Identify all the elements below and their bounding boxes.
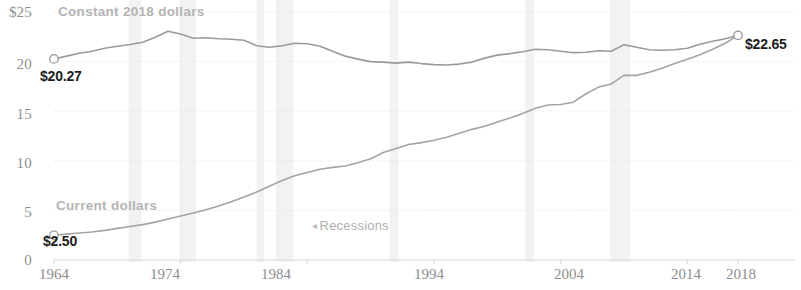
y-axis-tick-20: 20 (0, 56, 32, 73)
x-axis-tick-2018: 2018 (715, 266, 767, 283)
recessions-annotation: ◂Recessions (312, 218, 388, 233)
y-axis-tick-15: 15 (0, 106, 32, 123)
x-axis-tick-1984: 1984 (250, 266, 302, 283)
y-axis-tick-10: 10 (0, 155, 32, 172)
x-axis-tick-1974: 1974 (139, 266, 191, 283)
x-axis-tick-2004: 2004 (543, 266, 595, 283)
chart-container: $25 20 15 10 5 0 1964 1974 1984 1994 200… (0, 0, 801, 290)
recession-band (525, 0, 534, 262)
endpoint-marker-end (734, 31, 742, 39)
x-axis-tick-1994: 1994 (403, 266, 455, 283)
x-axis-tick-2014: 2014 (660, 266, 712, 283)
y-axis-tick-5: 5 (0, 204, 32, 221)
recession-band (276, 0, 294, 262)
value-label-current-start: $2.50 (43, 233, 77, 249)
recessions-annotation-label: Recessions (320, 218, 389, 233)
recession-band (390, 0, 399, 262)
value-label-constant-start: $20.27 (40, 68, 82, 84)
endpoint-marker-start-constant (50, 55, 58, 63)
recession-band (129, 0, 142, 262)
line-chart-plot (0, 0, 801, 290)
recession-band (257, 0, 265, 262)
x-axis-tick-1964: 1964 (28, 266, 80, 283)
left-arrow-icon: ◂ (312, 220, 317, 231)
recession-band (610, 0, 630, 262)
series-label-current-dollars: Current dollars (56, 198, 157, 213)
value-label-converged-end: $22.65 (745, 36, 787, 52)
series-label-constant-dollars: Constant 2018 dollars (58, 4, 205, 19)
y-axis-tick-25: $25 (0, 4, 32, 21)
recession-band (179, 0, 195, 262)
